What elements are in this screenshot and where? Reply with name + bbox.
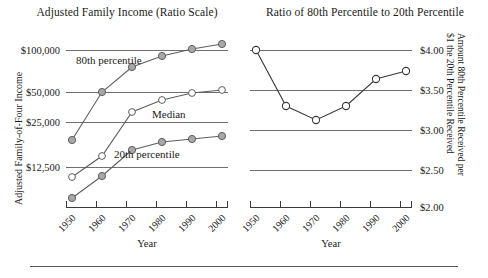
xtick-label-2000: 2000 (206, 212, 228, 234)
xtick-right-1950 (250, 201, 251, 207)
xtick-1990 (186, 201, 187, 207)
xtick-right-1990 (370, 201, 371, 207)
ytick-label-3-50: $3.50 (420, 85, 444, 96)
xtick-right-1960 (280, 201, 281, 207)
xtick-end (227, 201, 228, 207)
panel-left-title: Adjusted Family Income (Ratio Scale) (0, 6, 244, 18)
xtick-label-1970: 1970 (116, 212, 138, 234)
series-line-ratio (256, 50, 406, 120)
panel-right-series-group (250, 44, 412, 200)
xtick-1970 (126, 201, 127, 207)
xtick-right-end (411, 201, 412, 207)
panel-right-x-axis (250, 207, 412, 208)
panel-right-y-axis-title-line1: Amount 80th Percentile Received per (456, 33, 466, 176)
figure-two-panel-income-charts: Adjusted Family Income (Ratio Scale) Adj… (0, 0, 488, 278)
xtick-label-1990: 1990 (176, 212, 198, 234)
xtick-2000 (216, 201, 217, 207)
panel-left-series-group (66, 44, 228, 200)
annotation-median: Median (152, 108, 186, 120)
ytick-label-50000: $50,000 (2, 87, 60, 98)
panel-left-plot-area: $100,000 $50,000 $25,000 $12,500 (66, 44, 228, 200)
xtick-label-1980: 1980 (146, 212, 168, 234)
ytick-label-4-00: $4.00 (420, 45, 444, 56)
ytick-label-2-50: $2.50 (420, 165, 444, 176)
xtick-1980 (156, 201, 157, 207)
series-markers-median (69, 87, 226, 181)
panel-right-plot-area: $4.00 $3.50 $3.00 $2.50 $2.00 1950 1960 (250, 44, 430, 200)
series-markers-20th-percentile (68, 132, 225, 201)
xtick-1960 (96, 201, 97, 207)
ytick-label-25000: $25,000 (2, 117, 60, 128)
series-line-20th-percentile (72, 136, 222, 198)
panel-right-y-axis-title-line2: $1 the 20th Percentile Received (445, 33, 456, 193)
xtick-right-1980 (340, 201, 341, 207)
panel-right-title: Ratio of 80th Percentile to 20th Percent… (244, 6, 488, 18)
panel-left-x-axis (66, 207, 228, 208)
panel-right-y-axis-title: Amount 80th Percentile Received per $1 t… (445, 33, 466, 193)
annotation-80th-percentile: 80th percentile (76, 54, 142, 66)
ytick-label-12500: $12,500 (2, 162, 60, 173)
ytick-label-3-00: $3.00 (420, 125, 444, 136)
panel-left-x-axis-title: Year (66, 238, 228, 249)
ytick-label-100000: $100,000 (2, 45, 60, 56)
xtick-right-1970 (310, 201, 311, 207)
figure-bottom-rule (30, 266, 458, 267)
panel-adjusted-family-income: Adjusted Family Income (Ratio Scale) Adj… (0, 0, 244, 260)
xtick-label-1960: 1960 (86, 212, 108, 234)
series-markers-ratio (252, 46, 409, 123)
annotation-20th-percentile: 20th percentile (114, 148, 180, 160)
xtick-1950 (66, 201, 67, 207)
xtick-label-1950: 1950 (56, 212, 78, 234)
ytick-label-2-00: $2.00 (420, 202, 444, 213)
xtick-right-2000 (400, 201, 401, 207)
panel-right-x-axis-title: Year (250, 238, 412, 249)
